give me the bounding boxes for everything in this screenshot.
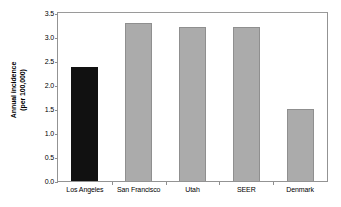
bar-chart-figure: Annual incidence (per 100,000) 0.00.51.0… bbox=[0, 0, 341, 207]
x-axis-tick-mark bbox=[273, 182, 274, 185]
x-axis-tick-labels: Los AngelesSan FranciscoUtahSEERDenmark bbox=[57, 186, 328, 200]
y-axis-title-line-2: (per 100,000) bbox=[18, 62, 27, 118]
y-axis-tick-mark bbox=[55, 38, 58, 39]
x-axis-tick-mark bbox=[219, 182, 220, 185]
y-axis-tick-mark bbox=[55, 62, 58, 63]
y-axis-tick-label: 3.0 bbox=[34, 34, 54, 41]
x-axis-tick-label: Denmark bbox=[286, 186, 314, 193]
x-axis-tick-label: Utah bbox=[185, 186, 199, 193]
bar-utah bbox=[179, 27, 206, 181]
y-axis-title: Annual incidence (per 100,000) bbox=[0, 0, 36, 180]
y-axis-tick-mark bbox=[55, 14, 58, 15]
bar-seer bbox=[233, 27, 260, 181]
bar-san-francisco bbox=[125, 23, 152, 181]
x-axis-tick-mark bbox=[112, 182, 113, 185]
y-axis-title-line-1: Annual incidence bbox=[9, 62, 18, 118]
y-axis-tick-mark bbox=[55, 86, 58, 87]
y-axis-tick-label: 1.5 bbox=[34, 106, 54, 113]
x-axis-tick-label: SEER bbox=[237, 186, 256, 193]
bar-denmark bbox=[287, 109, 314, 181]
plot-area bbox=[57, 12, 328, 182]
y-axis-tick-label: 2.5 bbox=[34, 58, 54, 65]
y-axis-tick-mark bbox=[55, 158, 58, 159]
y-axis-title-text: Annual incidence (per 100,000) bbox=[9, 62, 27, 118]
y-axis-tick-labels: 0.00.51.01.52.02.53.03.5 bbox=[34, 10, 54, 182]
y-axis-tick-mark bbox=[55, 110, 58, 111]
y-axis-tick-mark bbox=[55, 134, 58, 135]
x-axis-tick-label: San Francisco bbox=[117, 186, 160, 193]
x-axis-tick-label: Los Angeles bbox=[66, 186, 103, 193]
y-axis-tick-label: 0.5 bbox=[34, 154, 54, 161]
y-axis-tick-label: 3.5 bbox=[34, 10, 54, 17]
y-axis-tick-label: 2.0 bbox=[34, 82, 54, 89]
bar-los-angeles bbox=[71, 67, 98, 181]
x-axis-tick-mark bbox=[166, 182, 167, 185]
y-axis-tick-label: 1.0 bbox=[34, 130, 54, 137]
y-axis-tick-label: 0.0 bbox=[34, 178, 54, 185]
plot-inner bbox=[58, 13, 327, 181]
